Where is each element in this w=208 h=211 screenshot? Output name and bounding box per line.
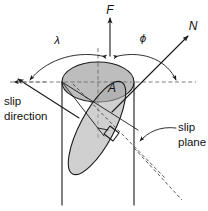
normal-label: N [189, 19, 198, 33]
slip-direction-label-line2: direction [4, 110, 47, 122]
force-label: F [106, 3, 114, 17]
slip-plane-label-line1: slip [178, 121, 195, 133]
diagram-container: F N λ ϕ A s [0, 0, 208, 211]
slip-plane-leader [140, 128, 176, 141]
slip-direction-label-group: slip direction [4, 95, 47, 122]
slip-plane-label-group: slip plane [140, 121, 206, 148]
slip-plane-trace-extension [134, 148, 182, 200]
force-arrow-group: F [106, 3, 114, 56]
area-label: A [107, 81, 116, 95]
lambda-label: λ [53, 34, 60, 46]
slip-plane-label-line2: plane [178, 136, 206, 148]
slip-geometry-diagram: F N λ ϕ A s [0, 0, 208, 211]
slip-direction-label-line1: slip [4, 95, 21, 107]
phi-label: ϕ [140, 32, 147, 44]
